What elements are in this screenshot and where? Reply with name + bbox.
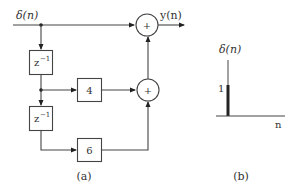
- figure-canvas: δ(n) z −1 4 z −1: [0, 0, 298, 189]
- line-to-gain-6: [41, 131, 76, 150]
- delay-2-label: z: [34, 113, 39, 124]
- impulse-plot-b: δ(n) 1 n (b): [216, 43, 285, 183]
- impulse-y-label: δ(n): [219, 43, 241, 56]
- output-label: y(n): [159, 9, 182, 22]
- delay-block-1: z −1: [30, 51, 53, 75]
- block-diagram-a: δ(n) z −1 4 z −1: [13, 9, 184, 183]
- adder-2: +: [137, 79, 159, 101]
- x-axis-label: n: [275, 119, 282, 130]
- adder-2-symbol: +: [144, 85, 152, 96]
- gain-4-label: 4: [86, 85, 92, 96]
- delay-block-2: z −1: [30, 107, 53, 131]
- impulse-value-label: 1: [218, 83, 224, 94]
- caption-b: (b): [233, 170, 249, 183]
- input-label: δ(n): [16, 9, 38, 22]
- gain-6-label: 6: [86, 145, 92, 156]
- gain-block-6: 6: [78, 139, 102, 162]
- caption-a: (a): [76, 170, 91, 183]
- delay-2-exponent: −1: [40, 111, 50, 119]
- adder-1-symbol: +: [143, 20, 151, 31]
- delay-1-exponent: −1: [40, 55, 50, 63]
- adder-1: +: [136, 14, 158, 36]
- gain-block-4: 4: [78, 79, 102, 102]
- delay-1-label: z: [34, 57, 39, 68]
- line-gain6-to-adder2: [102, 102, 148, 150]
